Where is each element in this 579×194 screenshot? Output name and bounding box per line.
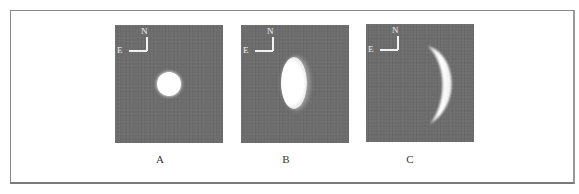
planet-gibbous xyxy=(281,57,307,109)
compass-east-arrow xyxy=(129,50,147,52)
panel-label-a: A xyxy=(150,153,170,165)
panel-c: N E xyxy=(366,24,474,142)
compass-east-label: E xyxy=(117,45,123,55)
panel-label-b: B xyxy=(276,153,296,165)
compass-north-arrow xyxy=(146,37,148,51)
compass-east-arrow xyxy=(255,50,273,52)
planet-full-disk xyxy=(157,72,181,96)
panel-label-c: C xyxy=(400,153,420,165)
compass-north-label: N xyxy=(141,26,148,36)
compass-north-label: N xyxy=(267,26,274,36)
panel-b: N E xyxy=(241,25,349,143)
compass-north-arrow xyxy=(272,37,274,51)
panel-a: N E xyxy=(115,25,223,143)
planet-crescent xyxy=(366,24,474,142)
compass-east-label: E xyxy=(243,45,249,55)
